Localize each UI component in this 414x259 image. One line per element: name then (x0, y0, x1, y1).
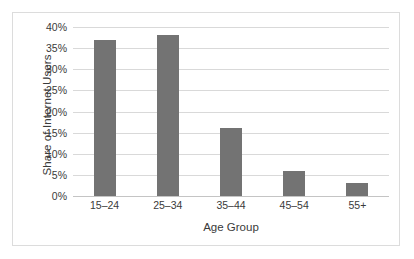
x-axis-tick-label: 25–34 (153, 199, 182, 211)
axis-baseline (73, 196, 389, 197)
bar-slot (73, 27, 136, 196)
plot-area (73, 27, 389, 196)
y-axis-tick-label: 15% (46, 127, 67, 139)
y-axis-tick-label: 5% (52, 169, 67, 181)
x-axis-tick-label: 45–54 (280, 199, 309, 211)
bar[interactable] (94, 40, 116, 196)
bar[interactable] (346, 183, 368, 196)
bar[interactable] (220, 128, 242, 196)
bar-slot (136, 27, 199, 196)
y-axis-tick-label: 40% (46, 21, 67, 33)
y-axis-tick-label: 30% (46, 63, 67, 75)
bar-slot (199, 27, 262, 196)
x-axis-tick-label: 35–44 (216, 199, 245, 211)
x-axis-title: Age Group (73, 221, 389, 233)
y-axis-tick-label: 0% (52, 190, 67, 202)
bar-chart-figure: Share of Internet Users 0%5%10%15%20%25%… (12, 12, 400, 246)
bar[interactable] (283, 171, 305, 196)
y-axis-tick-label: 35% (46, 42, 67, 54)
y-axis-tick-label: 20% (46, 106, 67, 118)
bars-layer (73, 27, 389, 196)
x-axis-tick-label: 15–24 (90, 199, 119, 211)
y-axis-tick-label: 10% (46, 148, 67, 160)
bar-slot (263, 27, 326, 196)
bar[interactable] (157, 35, 179, 196)
y-axis-tick-labels: 0%5%10%15%20%25%30%35%40% (27, 27, 71, 196)
bar-slot (326, 27, 389, 196)
x-axis-tick-labels: 15–2425–3435–4445–5455+ (73, 199, 389, 215)
y-axis-tick-label: 25% (46, 84, 67, 96)
x-axis-tick-label: 55+ (348, 199, 366, 211)
